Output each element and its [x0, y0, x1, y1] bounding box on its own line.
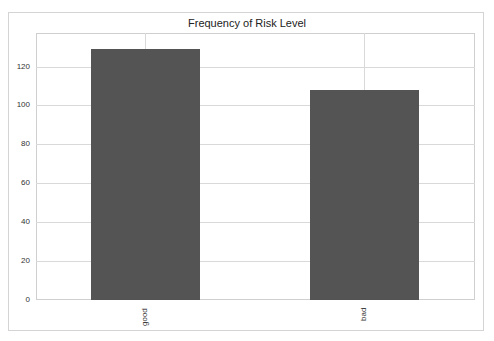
- y-tick-label: 20: [0, 256, 30, 265]
- y-tick-label: 40: [0, 217, 30, 226]
- bar-bad: [310, 90, 419, 300]
- chart-title: Frequency of Risk Level: [0, 17, 494, 29]
- y-tick-label: 60: [0, 178, 30, 187]
- y-tick-label: 0: [0, 295, 30, 304]
- x-tick-label: bad: [359, 307, 368, 320]
- x-tick-label: good: [140, 308, 149, 326]
- y-tick-label: 100: [0, 100, 30, 109]
- y-tick-label: 80: [0, 139, 30, 148]
- bar-good: [91, 49, 200, 300]
- y-tick-label: 120: [0, 62, 30, 71]
